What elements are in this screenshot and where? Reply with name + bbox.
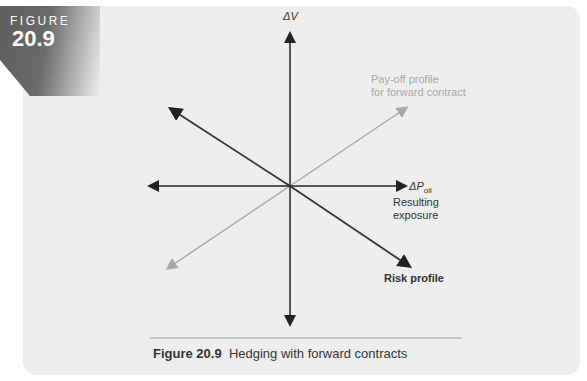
figure-caption: Figure 20.9 Hedging with forward contrac…: [153, 346, 407, 361]
forward-contract-label: Pay-off profilefor forward contract: [371, 73, 466, 99]
risk-profile-label: Risk profile: [384, 272, 444, 285]
hedging-diagram: [0, 0, 587, 381]
resulting-exposure-label: Resultingexposure: [393, 196, 439, 222]
x-axis-label: ΔPoil: [409, 180, 432, 197]
axes: [150, 34, 405, 324]
y-axis-label: ΔV: [283, 10, 298, 23]
forward-contract-line: [168, 108, 406, 268]
